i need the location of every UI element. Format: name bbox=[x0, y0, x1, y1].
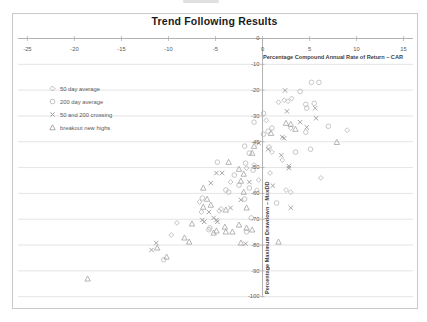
y-tick-label: -10 bbox=[230, 61, 260, 67]
data-point-diamond bbox=[318, 176, 323, 181]
data-point-x bbox=[154, 241, 158, 245]
data-point-triangle bbox=[241, 171, 246, 176]
data-point-triangle bbox=[189, 221, 194, 226]
x-tick-label: 15 bbox=[400, 46, 406, 52]
y-tick-label: -50 bbox=[230, 164, 260, 170]
x-tick-label: -25 bbox=[23, 46, 31, 52]
data-point-triangle bbox=[230, 229, 235, 234]
legend-item: 50 and 200 crossing bbox=[48, 108, 112, 121]
y-tick-label: -80 bbox=[230, 242, 260, 248]
y-tick-label: -100 bbox=[230, 293, 260, 299]
data-point-circle bbox=[317, 80, 322, 85]
legend: 50 day average200 day average50 and 200 … bbox=[48, 82, 112, 134]
data-point-triangle bbox=[85, 276, 90, 281]
data-point-diamond bbox=[268, 171, 273, 176]
data-point-circle bbox=[261, 111, 266, 116]
data-point-circle bbox=[261, 132, 266, 137]
data-point-x bbox=[149, 248, 153, 252]
data-point-x bbox=[282, 136, 286, 140]
data-point-triangle bbox=[244, 205, 249, 210]
y-tick-label: 0 bbox=[230, 35, 260, 41]
data-point-triangle bbox=[223, 229, 228, 234]
data-point-diamond bbox=[175, 220, 180, 225]
legend-marker-triangle-icon bbox=[48, 123, 57, 132]
data-point-diamond bbox=[284, 188, 289, 193]
legend-item: 200 day average bbox=[48, 95, 112, 108]
legend-label: 50 day average bbox=[60, 86, 100, 92]
data-point-x bbox=[279, 153, 283, 157]
legend-item: 50 day average bbox=[48, 82, 112, 95]
data-point-diamond bbox=[256, 178, 261, 183]
data-point-circle bbox=[161, 257, 166, 262]
data-point-triangle bbox=[182, 235, 187, 240]
data-point-diamond bbox=[276, 100, 281, 105]
data-point-x bbox=[209, 181, 213, 185]
y-tick-label: -40 bbox=[230, 139, 260, 145]
y-tick-label: -30 bbox=[230, 113, 260, 119]
data-point-circle bbox=[326, 124, 331, 129]
data-point-circle bbox=[252, 120, 257, 125]
x-tick-label: -15 bbox=[117, 46, 125, 52]
data-point-diamond bbox=[270, 150, 275, 155]
data-point-triangle bbox=[249, 227, 254, 232]
data-point-x bbox=[314, 116, 318, 120]
data-point-diamond bbox=[199, 210, 204, 215]
data-point-x bbox=[285, 109, 289, 113]
x-tick-label: 10 bbox=[353, 46, 359, 52]
data-point-diamond bbox=[228, 180, 233, 185]
data-point-triangle bbox=[293, 126, 298, 131]
data-point-circle bbox=[293, 150, 298, 155]
data-point-triangle bbox=[201, 185, 206, 190]
legend-label: breakout new highs bbox=[60, 125, 110, 131]
legend-marker-x-icon bbox=[48, 110, 57, 119]
legend-item: breakout new highs bbox=[48, 121, 112, 134]
data-point-circle bbox=[309, 80, 314, 85]
data-point-triangle bbox=[283, 120, 288, 125]
data-point-triangle bbox=[276, 239, 281, 244]
data-point-x bbox=[313, 106, 317, 110]
data-point-circle bbox=[312, 101, 317, 106]
data-point-triangle bbox=[238, 178, 243, 183]
data-point-x bbox=[207, 210, 211, 214]
x-tick-label: 5 bbox=[308, 46, 311, 52]
y-tick-label: -90 bbox=[230, 268, 260, 274]
data-point-triangle bbox=[236, 222, 241, 227]
x-tick-label: -5 bbox=[213, 46, 218, 52]
data-point-x bbox=[214, 171, 218, 175]
data-point-triangle bbox=[223, 207, 228, 212]
chart-figure: Trend Following Results Percentage Compo… bbox=[0, 0, 427, 322]
y-tick-label: -70 bbox=[230, 216, 260, 222]
data-point-triangle bbox=[204, 196, 209, 201]
x-tick-label: 0 bbox=[261, 46, 264, 52]
legend-label: 50 and 200 crossing bbox=[60, 112, 112, 118]
data-point-triangle bbox=[222, 224, 227, 229]
data-point-diamond bbox=[264, 118, 269, 123]
data-point-circle bbox=[274, 201, 279, 206]
y-tick-label: -60 bbox=[230, 190, 260, 196]
x-tick-label: -10 bbox=[164, 46, 172, 52]
data-point-circle bbox=[215, 160, 220, 165]
data-point-diamond bbox=[280, 158, 285, 163]
legend-marker-diamond-icon bbox=[48, 84, 57, 93]
data-point-x bbox=[271, 183, 275, 187]
data-point-circle bbox=[303, 130, 308, 135]
y-tick-label: -20 bbox=[230, 87, 260, 93]
x-tick-label: -20 bbox=[70, 46, 78, 52]
data-point-diamond bbox=[169, 233, 174, 238]
data-point-x bbox=[247, 180, 251, 184]
data-point-circle bbox=[308, 147, 313, 152]
data-point-triangle bbox=[164, 254, 169, 259]
data-point-triangle bbox=[201, 204, 206, 209]
data-point-x bbox=[220, 171, 224, 175]
data-point-x bbox=[215, 220, 219, 224]
data-point-x bbox=[228, 206, 232, 210]
data-point-x bbox=[305, 125, 309, 129]
data-point-circle bbox=[232, 173, 237, 178]
data-point-triangle bbox=[208, 202, 213, 207]
data-point-x bbox=[289, 206, 293, 210]
data-point-triangle bbox=[154, 245, 159, 250]
data-point-x bbox=[298, 120, 302, 124]
data-point-x bbox=[202, 220, 206, 224]
data-point-diamond bbox=[345, 128, 350, 133]
data-point-diamond bbox=[289, 96, 294, 101]
